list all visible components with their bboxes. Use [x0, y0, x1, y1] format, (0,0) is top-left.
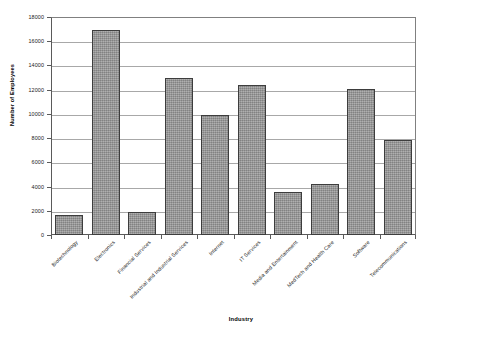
x-category-label: Financial Services	[116, 239, 152, 275]
x-axis-title: Industry	[0, 316, 482, 322]
y-tick-label: 14000	[29, 62, 45, 68]
x-category-label: Telecommunications	[368, 239, 407, 278]
y-tick-label: 6000	[32, 159, 44, 165]
y-tick-label: 18000	[29, 14, 45, 20]
bar-series	[51, 17, 416, 235]
y-axis: 0200040006000800010000120001400016000180…	[0, 10, 51, 242]
bar-chart: 0200040006000800010000120001400016000180…	[0, 0, 482, 343]
bar	[128, 212, 156, 235]
bar	[165, 78, 193, 235]
y-tick-label: 8000	[32, 135, 44, 141]
bar	[201, 115, 229, 235]
bar	[274, 192, 302, 235]
x-category-label: Biotechnology	[50, 239, 79, 268]
x-category-label: Internet	[208, 239, 226, 257]
bar	[311, 184, 339, 235]
bar	[55, 215, 83, 235]
bar	[384, 140, 412, 235]
x-category-label: IT Services	[238, 239, 262, 263]
y-tick-label: 2000	[32, 208, 44, 214]
x-category-label: Software	[352, 239, 372, 259]
y-tick-label: 10000	[29, 111, 45, 117]
y-tick-label: 16000	[29, 38, 45, 44]
y-tick-label: 4000	[32, 184, 44, 190]
bar	[347, 89, 375, 235]
bar	[92, 30, 120, 235]
x-category-label: Electronics	[93, 239, 116, 262]
bar	[238, 85, 266, 235]
y-axis-title: Number of Employees	[9, 49, 15, 141]
x-axis-category-labels: BiotechnologyElectronicsFinancial Servic…	[0, 235, 482, 320]
y-tick-label: 12000	[29, 87, 45, 93]
